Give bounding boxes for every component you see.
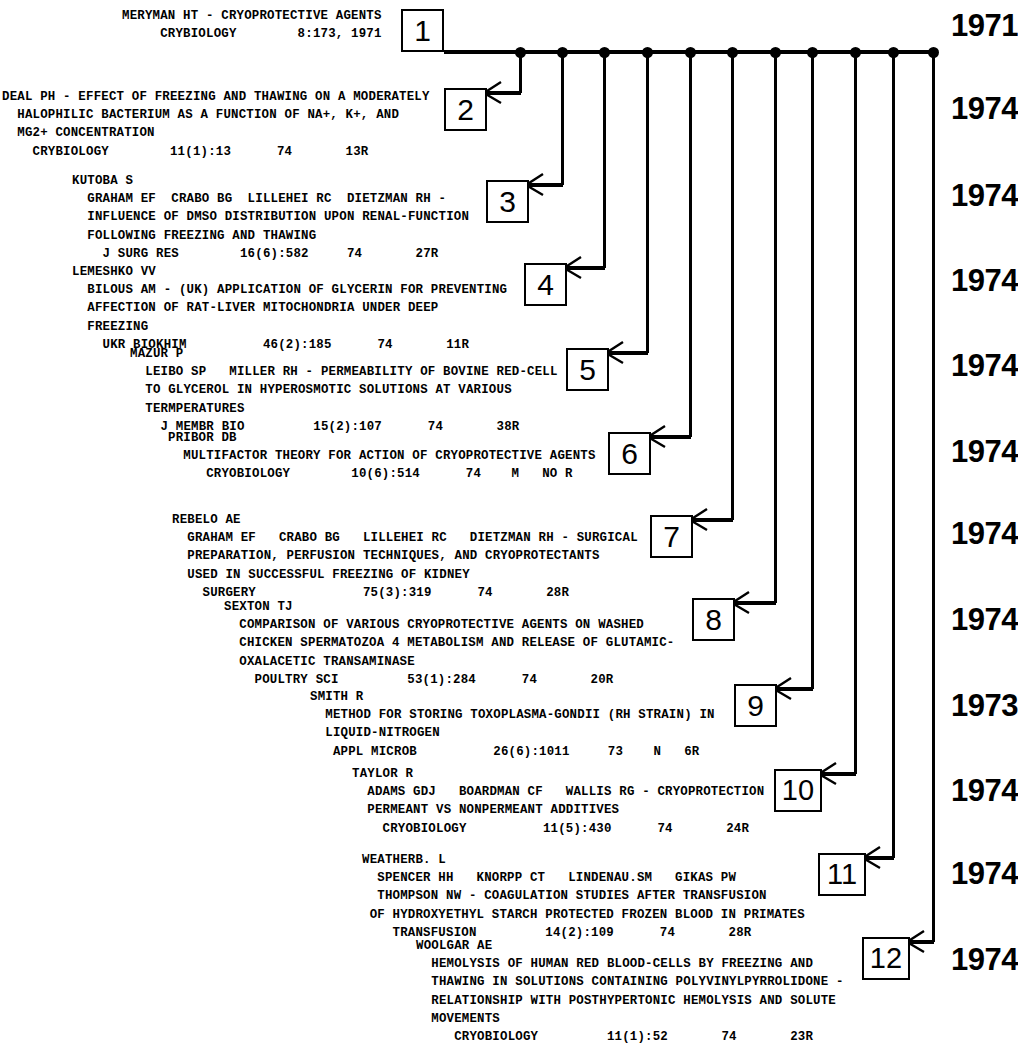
timeline-node-dot-3: [599, 47, 610, 58]
timeline-node-dot-4: [642, 47, 653, 58]
citation-number-box-6[interactable]: 6: [608, 432, 651, 475]
connector-vertical-7: [731, 52, 734, 520]
citation-number-box-12[interactable]: 12: [862, 937, 910, 980]
citation-line: HEMOLYSIS OF HUMAN RED BLOOD-CELLS BY FR…: [416, 955, 844, 973]
timeline-node-dot-11: [928, 47, 939, 58]
year-label-4: 1974: [951, 265, 1018, 296]
citation-line: CHICKEN SPERMATOZOA 4 METABOLISM AND REL…: [224, 634, 675, 652]
connector-vertical-4: [603, 52, 606, 268]
citation-number-box-10[interactable]: 10: [774, 769, 822, 812]
year-label-1: 1971: [951, 10, 1018, 41]
citation-line: CRYOBIOLOGY 10(6):514 74 M NO R: [168, 465, 596, 483]
citation-number-box-9[interactable]: 9: [734, 684, 777, 727]
timeline-node-dot-10: [888, 47, 899, 58]
citation-line: COMPARISON OF VARIOUS CRYOPROTECTIVE AGE…: [224, 616, 675, 634]
citation-line: GRAHAM EF CRABO BG LILLEHEI RC DIETZMAN …: [72, 190, 469, 208]
citation-line: FOLLOWING FREEZING AND THAWING: [72, 227, 469, 245]
citation-line: FREEZING: [72, 318, 507, 336]
timeline-node-dot-1: [515, 47, 526, 58]
citation-line: OF HYDROXYETHYL STARCH PROTECTED FROZEN …: [362, 906, 805, 924]
citation-line: SMITH R: [310, 688, 715, 706]
connector-vertical-2: [519, 52, 522, 93]
year-label-9: 1973: [951, 690, 1018, 721]
citation-line: POULTRY SCI 53(1):284 74 20R: [224, 671, 675, 689]
citation-line: HALOPHILIC BACTERIUM AS A FUNCTION OF NA…: [2, 106, 430, 124]
year-label-10: 1974: [951, 775, 1018, 806]
citation-line: WEATHERB. L: [362, 851, 805, 869]
citation-number-box-5[interactable]: 5: [566, 348, 609, 391]
citation-line: CRYOBIOLOGY 11(5):430 74 24R: [352, 820, 764, 838]
citation-line: TO GLYCEROL IN HYPEROSMOTIC SOLUTIONS AT…: [130, 381, 558, 399]
citation-line: MG2+ CONCENTRATION: [2, 124, 430, 142]
citation-line: REBELO AE: [172, 511, 638, 529]
citation-number-box-11[interactable]: 11: [818, 853, 866, 896]
year-label-3: 1974: [951, 180, 1018, 211]
citation-number-box-1[interactable]: 1: [401, 9, 444, 52]
citation-number-box-4[interactable]: 4: [524, 263, 567, 306]
citation-line: CRYBIOLOGY 8:173, 1971: [122, 25, 382, 43]
citation-line: SPENCER HH KNORPP CT LINDENAU.SM GIKAS P…: [362, 869, 805, 887]
citation-entry-7: REBELO AE GRAHAM EF CRABO BG LILLEHEI RC…: [172, 511, 638, 602]
citation-line: GRAHAM EF CRABO BG LILLEHEI RC DIETZMAN …: [172, 529, 638, 547]
citation-timeline-diagram: MERYMAN HT - CRYOPROTECTIVE AGENTS CRYBI…: [0, 0, 1018, 1045]
citation-line: ADAMS GDJ BOARDMAN CF WALLIS RG - CRYOPR…: [352, 783, 764, 801]
citation-line: BILOUS AM - (UK) APPLICATION OF GLYCERIN…: [72, 281, 507, 299]
connector-vertical-6: [689, 52, 692, 437]
citation-line: MOVEMENTS: [416, 1010, 844, 1028]
year-label-8: 1974: [951, 604, 1018, 635]
citation-line: USED IN SUCCESSFUL FREEZING OF KIDNEY: [172, 566, 638, 584]
citation-number-box-3[interactable]: 3: [486, 180, 529, 223]
citation-line: PREPARATION, PERFUSION TECHNIQUES, AND C…: [172, 547, 638, 565]
connector-vertical-8: [774, 52, 777, 603]
timeline-node-dot-5: [685, 47, 696, 58]
year-label-6: 1974: [951, 436, 1018, 467]
citation-line: LEIBO SP MILLER RH - PERMEABILITY OF BOV…: [130, 363, 558, 381]
citation-line: MULTIFACTOR THEORY FOR ACTION OF CRYOPRO…: [168, 447, 596, 465]
connector-vertical-9: [811, 52, 814, 689]
citation-line: AFFECTION OF RAT-LIVER MITOCHONDRIA UNDE…: [72, 299, 507, 317]
citation-line: THAWING IN SOLUTIONS CONTAINING POLYVINY…: [416, 973, 844, 991]
citation-number-box-7[interactable]: 7: [650, 515, 693, 558]
citation-entry-11: WEATHERB. L SPENCER HH KNORPP CT LINDENA…: [362, 851, 805, 942]
citation-line: RELATIONSHIP WITH POSTHYPERTONIC HEMOLYS…: [416, 992, 844, 1010]
citation-entry-3: KUTOBA S GRAHAM EF CRABO BG LILLEHEI RC …: [72, 172, 469, 263]
connector-vertical-11: [892, 52, 895, 858]
connector-vertical-3: [561, 52, 564, 185]
citation-entry-5: MAZUR P LEIBO SP MILLER RH - PERMEABILIT…: [130, 345, 558, 436]
citation-entry-6: PRIBOR DB MULTIFACTOR THEORY FOR ACTION …: [168, 429, 596, 484]
citation-line: J SURG RES 16(6):582 74 27R: [72, 245, 469, 263]
citation-entry-10: TAYLOR R ADAMS GDJ BOARDMAN CF WALLIS RG…: [352, 765, 764, 838]
citation-line: MAZUR P: [130, 345, 558, 363]
citation-number-box-8[interactable]: 8: [692, 598, 735, 641]
year-label-12: 1974: [951, 944, 1018, 975]
citation-line: DEAL PH - EFFECT OF FREEZING AND THAWING…: [2, 88, 430, 106]
timeline-node-dot-8: [807, 47, 818, 58]
citation-line: CRYOBIOLOGY 11(1):52 74 23R: [416, 1028, 844, 1045]
timeline-node-dot-6: [727, 47, 738, 58]
timeline-node-dot-9: [850, 47, 861, 58]
citation-entry-12: WOOLGAR AE HEMOLYSIS OF HUMAN RED BLOOD-…: [416, 937, 844, 1045]
citation-entry-8: SEXTON TJ COMPARISON OF VARIOUS CRYOPROT…: [224, 598, 675, 689]
citation-line: OXALACETIC TRANSAMINASE: [224, 653, 675, 671]
citation-line: THOMPSON NW - COAGULATION STUDIES AFTER …: [362, 887, 805, 905]
citation-line: APPL MICROB 26(6):1011 73 N 6R: [310, 743, 715, 761]
timeline-node-dot-2: [557, 47, 568, 58]
year-label-2: 1974: [951, 93, 1018, 124]
citation-line: TERMPERATURES: [130, 400, 558, 418]
year-label-11: 1974: [951, 858, 1018, 889]
connector-vertical-5: [646, 52, 649, 353]
citation-entry-9: SMITH R METHOD FOR STORING TOXOPLASMA-GO…: [310, 688, 715, 761]
citation-line: PRIBOR DB: [168, 429, 596, 447]
citation-number-box-2[interactable]: 2: [444, 88, 487, 131]
citation-line: TAYLOR R: [352, 765, 764, 783]
citation-entry-2: DEAL PH - EFFECT OF FREEZING AND THAWING…: [2, 88, 430, 161]
citation-entry-4: LEMESHKO VV BILOUS AM - (UK) APPLICATION…: [72, 263, 507, 354]
year-label-7: 1974: [951, 518, 1018, 549]
connector-vertical-10: [854, 52, 857, 774]
connector-entry-1: [445, 50, 446, 53]
citation-line: LIQUID-NITROGEN: [310, 724, 715, 742]
citation-line: KUTOBA S: [72, 172, 469, 190]
citation-line: CRYBIOLOGY 11(1):13 74 13R: [2, 143, 430, 161]
timeline-node-dot-7: [770, 47, 781, 58]
citation-line: WOOLGAR AE: [416, 937, 844, 955]
